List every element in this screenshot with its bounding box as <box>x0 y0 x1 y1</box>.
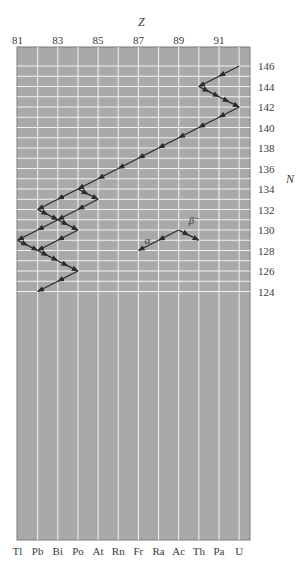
n-tick-label: 138 <box>258 142 275 154</box>
legend-beta-label: β⁻ <box>188 214 200 226</box>
plot-area <box>17 47 250 540</box>
bottom-axis-elements: TlPbBiPoAtRnFrRaAcThPaU <box>13 545 244 557</box>
element-label-ac: Ac <box>172 545 185 557</box>
n-tick-label: 130 <box>258 224 275 236</box>
element-label-pb: Pb <box>32 545 44 557</box>
n-tick-label: 128 <box>258 245 275 257</box>
n-tick-label: 126 <box>258 265 275 277</box>
z-tick-label: 91 <box>214 34 225 46</box>
z-tick-label: 89 <box>173 34 185 46</box>
z-tick-label: 85 <box>93 34 105 46</box>
element-label-ra: Ra <box>152 545 164 557</box>
decay-series-diagram: αβ⁻ Z818385878991 1461441421401381361341… <box>0 0 302 566</box>
n-tick-label: 132 <box>258 204 275 216</box>
n-tick-label: 140 <box>258 122 275 134</box>
element-label-fr: Fr <box>134 545 144 557</box>
element-label-tl: Tl <box>13 545 23 557</box>
element-label-at: At <box>93 545 104 557</box>
z-tick-label: 87 <box>133 34 145 46</box>
top-axis-z: Z818385878991 <box>12 15 225 46</box>
element-label-u: U <box>235 545 243 557</box>
z-tick-label: 81 <box>12 34 23 46</box>
n-tick-label: 124 <box>258 286 275 298</box>
element-label-rn: Rn <box>112 545 125 557</box>
z-axis-title: Z <box>138 15 145 29</box>
element-label-po: Po <box>72 545 84 557</box>
n-tick-label: 144 <box>258 81 275 93</box>
n-axis-title: N <box>285 172 295 186</box>
element-label-pa: Pa <box>214 545 225 557</box>
element-label-th: Th <box>193 545 206 557</box>
z-tick-label: 83 <box>52 34 64 46</box>
element-label-bi: Bi <box>53 545 63 557</box>
n-tick-label: 146 <box>258 60 275 72</box>
legend-alpha-label: α <box>144 234 150 246</box>
n-tick-label: 142 <box>258 101 275 113</box>
right-axis-n: 146144142140138136134132130128126124N <box>258 60 295 298</box>
n-tick-label: 136 <box>258 163 275 175</box>
n-tick-label: 134 <box>258 183 275 195</box>
